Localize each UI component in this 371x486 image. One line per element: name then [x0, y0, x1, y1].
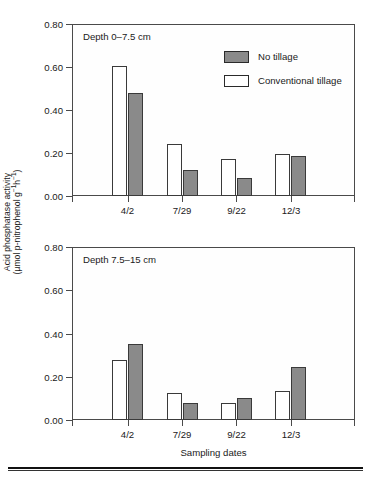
legend-item-conventional-tillage: Conventional tillage [224, 74, 371, 87]
y-tick-label-0.80: 0.80 [44, 242, 63, 253]
x-tick-4-2 [128, 196, 129, 202]
panel-depth-0-7-5-cm: Depth 0–7.5 cm 4/27/299/2212/30.000.200.… [72, 24, 355, 196]
bar-no-tillage-12-3 [291, 156, 306, 196]
y-axis-units-sup2: −1 [11, 172, 18, 179]
y-tick-label-0.60: 0.60 [44, 62, 63, 73]
bar-no-tillage-9-22 [237, 178, 252, 196]
y-tick-label-0.40: 0.40 [44, 105, 63, 116]
y-tick-0.60 [66, 67, 72, 68]
x-tick-12-3 [291, 420, 292, 426]
y-tick-0.00 [66, 420, 72, 421]
bar-no-tillage-7-29 [183, 403, 198, 420]
x-tick-label-12-3: 12/3 [282, 205, 301, 216]
x-tick-label-9-22: 9/22 [227, 205, 246, 216]
x-tick-label-4-2: 4/2 [121, 429, 134, 440]
y-tick-0.80 [66, 24, 72, 25]
bar-conventional-tillage-4-2 [112, 360, 127, 420]
y-tick-label-0.20: 0.20 [44, 148, 63, 159]
bar-conventional-tillage-9-22 [221, 159, 236, 196]
bar-no-tillage-4-2 [128, 93, 143, 196]
y-tick-label-0.60: 0.60 [44, 285, 63, 296]
y-tick-label-0.00: 0.00 [44, 191, 63, 202]
legend-swatch-no-tillage-icon [224, 51, 249, 63]
footer-rule-thin [8, 470, 363, 471]
panel-depth-7-5-15-cm: Depth 7.5–15 cm 4/27/299/2212/30.000.200… [72, 247, 355, 420]
y-tick-label-0.40: 0.40 [44, 328, 63, 339]
x-tick-label-4-2: 4/2 [121, 205, 134, 216]
x-tick-9-22 [236, 420, 237, 426]
y-axis-title: Acid phosphatase activity (µmol p-nitrop… [2, 97, 23, 347]
y-tick-0.20 [66, 377, 72, 378]
y-tick-0.40 [66, 334, 72, 335]
y-axis-units-sup1: −1 [11, 185, 18, 192]
y-axis-units-post: ) [12, 170, 22, 173]
bar-conventional-tillage-4-2 [112, 66, 127, 196]
y-tick-0.20 [66, 153, 72, 154]
y-tick-label-0.20: 0.20 [44, 371, 63, 382]
bars-layer-bottom [72, 247, 355, 420]
y-axis-units-pre: (µmol p-nitrophenol g [12, 192, 22, 274]
y-tick-label-0.00: 0.00 [44, 415, 63, 426]
y-tick-label-0.80: 0.80 [44, 19, 63, 30]
bar-no-tillage-4-2 [128, 344, 143, 420]
x-tick-label-7-29: 7/29 [173, 205, 192, 216]
footer-rule [8, 467, 363, 469]
y-axis-title-line1: Acid phosphatase activity [2, 97, 12, 347]
x-tick-7-29 [182, 196, 183, 202]
bar-conventional-tillage-7-29 [167, 393, 182, 420]
bar-no-tillage-12-3 [291, 367, 306, 420]
x-axis-title: Sampling dates [72, 447, 355, 458]
bar-conventional-tillage-12-3 [275, 391, 290, 420]
x-tick-label-9-22: 9/22 [227, 429, 246, 440]
bar-no-tillage-9-22 [237, 398, 252, 420]
x-tick-12-3 [291, 196, 292, 202]
x-tick-edge-1 [354, 196, 355, 202]
y-tick-0.00 [66, 196, 72, 197]
bar-conventional-tillage-12-3 [275, 154, 290, 196]
x-tick-4-2 [128, 420, 129, 426]
legend-item-no-tillage: No tillage [224, 50, 371, 63]
x-tick-7-29 [182, 420, 183, 426]
bar-conventional-tillage-9-22 [221, 403, 236, 420]
x-tick-edge-1 [354, 420, 355, 426]
bar-conventional-tillage-7-29 [167, 144, 182, 196]
figure-acid-phosphatase-activity: Acid phosphatase activity (µmol p-nitrop… [0, 0, 371, 486]
legend-label-no-tillage: No tillage [258, 51, 298, 62]
x-tick-label-7-29: 7/29 [173, 429, 192, 440]
legend-label-conventional-tillage: Conventional tillage [258, 75, 342, 86]
legend: No tillage Conventional tillage [224, 50, 371, 98]
x-tick-label-12-3: 12/3 [282, 429, 301, 440]
y-axis-units-mid: h [12, 180, 22, 185]
x-tick-9-22 [236, 196, 237, 202]
y-axis-title-wrapper: Acid phosphatase activity (µmol p-nitrop… [0, 0, 34, 440]
x-tick-edge-0 [72, 420, 73, 426]
bar-no-tillage-7-29 [183, 170, 198, 196]
y-tick-0.80 [66, 247, 72, 248]
y-tick-0.40 [66, 110, 72, 111]
legend-swatch-conventional-tillage-icon [224, 75, 249, 87]
y-axis-title-line2: (µmol p-nitrophenol g−1h−1) [12, 97, 22, 347]
x-tick-edge-0 [72, 196, 73, 202]
y-tick-0.60 [66, 290, 72, 291]
